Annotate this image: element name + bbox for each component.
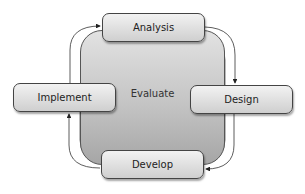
node-label: Design: [224, 94, 259, 105]
node-develop: Develop: [101, 150, 204, 179]
node-implement: Implement: [13, 83, 116, 112]
node-design: Design: [190, 85, 293, 114]
node-label: Implement: [37, 92, 91, 103]
node-label: Develop: [132, 159, 173, 170]
node-analysis: Analysis: [102, 13, 205, 42]
cycle-diagram: Evaluate Analysis Design Develop Impleme…: [0, 0, 305, 194]
node-label: Analysis: [133, 22, 174, 33]
